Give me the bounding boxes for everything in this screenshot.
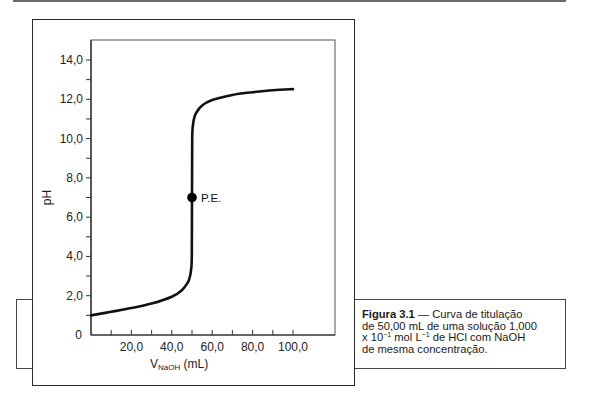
caption-line-4: de mesma concentração. [362,343,488,355]
caption-dash: — [415,308,432,320]
x-axis-title-main: V [150,357,158,371]
caption-line-3a: x 10 [362,331,383,343]
y-axis-title: pH [40,190,54,205]
caption-line-1: Curva de titulação [432,308,522,320]
caption-line-2: de 50,00 mL de uma solução 1,000 [362,320,537,332]
plot-frame [91,40,335,335]
x-tick-label: 40,0 [160,340,184,354]
caption-exponent-2: −1 [422,331,430,338]
x-axis-title-subscript: NaOH [158,363,180,372]
y-tick-label: 14,0 [60,53,84,67]
figure-caption: Figura 3.1 — Curva de titulação de 50,00… [362,309,562,355]
x-axis-title: VNaOH (mL) [150,357,208,372]
x-tick-label: 60,0 [201,340,225,354]
y-tick-label: 6,0 [66,210,83,224]
caption-line-3b: mol L [391,331,421,343]
equivalence-point-label: P.E. [201,192,221,204]
caption-line-3c: de HCl com NaOH [430,331,526,343]
y-tick-label: 4,0 [66,249,83,263]
x-axis-title-unit: (mL) [180,357,208,371]
x-tick-label: 20,0 [120,340,144,354]
y-tick-label: 0 [75,328,82,342]
x-tick-label: 80,0 [241,340,265,354]
x-tick-label: 100,0 [278,340,308,354]
chart-axes [91,40,335,335]
caption-exponent-1: −1 [383,331,391,338]
equivalence-point-marker [187,193,197,203]
y-tick-label: 8,0 [66,171,83,185]
y-tick-label: 2,0 [66,289,83,303]
y-tick-label: 10,0 [60,132,84,146]
figure-label: Figura 3.1 [362,308,415,320]
y-tick-label: 12,0 [60,92,84,106]
chart-tick-labels: 02,04,06,08,010,012,014,020,040,060,080,… [60,53,309,354]
